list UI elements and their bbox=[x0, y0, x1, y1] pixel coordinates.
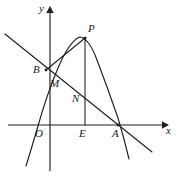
y-axis-label: y bbox=[39, 3, 44, 14]
point-label-M: M bbox=[50, 78, 59, 89]
point-label-P: P bbox=[88, 23, 95, 34]
segment-BP bbox=[46, 38, 85, 70]
y-axis-arrow-icon bbox=[46, 6, 54, 13]
point-label-N: N bbox=[72, 93, 79, 104]
point-marker-B bbox=[45, 69, 48, 72]
point-label-E: E bbox=[79, 128, 86, 139]
origin-label: O bbox=[35, 128, 43, 139]
point-marker-A bbox=[117, 124, 120, 127]
point-label-A: A bbox=[112, 128, 119, 139]
geometry-figure: y x O P B M N E A bbox=[0, 0, 179, 177]
point-marker-P bbox=[83, 36, 86, 39]
point-label-B: B bbox=[33, 64, 40, 75]
x-axis-label: x bbox=[166, 125, 171, 136]
